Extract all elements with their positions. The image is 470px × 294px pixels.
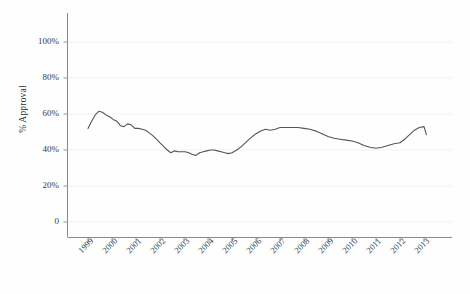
y-tick-label: 100% xyxy=(38,36,59,46)
y-tick-label: 80% xyxy=(43,72,60,82)
y-tick-label: 40% xyxy=(43,144,60,154)
y-axis-ticks xyxy=(64,42,68,222)
y-axis-title: % Approval xyxy=(18,64,28,154)
y-tick-label: 20% xyxy=(43,180,60,190)
approval-data-line xyxy=(88,111,426,155)
y-tick-label: 60% xyxy=(43,108,60,118)
approval-line-chart: % Approval 020%40%60%80%100% 19992000200… xyxy=(0,0,470,294)
y-tick-label: 0 xyxy=(55,216,60,226)
